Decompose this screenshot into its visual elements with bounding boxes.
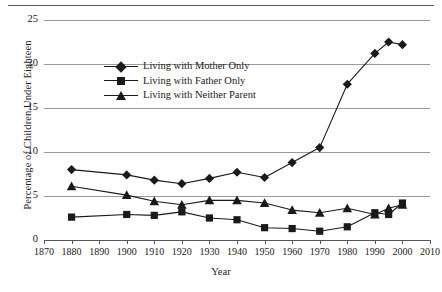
legend-item-label: Living with Father Only: [143, 74, 245, 89]
x-tick-1970: [320, 240, 321, 244]
triangle-marker-icon: [104, 88, 138, 102]
x-tick-1920: [182, 240, 183, 244]
x-tick-1870: [44, 240, 45, 244]
data-point-square-1970: [316, 228, 323, 235]
square-marker-icon: [104, 74, 138, 88]
data-point-square-1920: [178, 208, 185, 215]
x-tick-1910: [154, 240, 155, 244]
data-point-triangle-1880: [67, 182, 77, 191]
diamond-marker-icon: [104, 59, 138, 73]
legend-item-label: Living with Neither Parent: [143, 88, 256, 103]
data-point-diamond-2000: [398, 40, 407, 49]
y-tick-label-10: 10: [12, 145, 38, 156]
legend-item-1: Living with Mother Only: [104, 59, 256, 74]
x-tick-1890: [99, 240, 100, 244]
data-point-diamond-1920: [177, 179, 186, 188]
x-tick-1990: [375, 240, 376, 244]
legend-item-3: Living with Neither Parent: [104, 88, 256, 103]
data-point-diamond-1950: [260, 173, 269, 182]
data-point-diamond-1930: [205, 174, 214, 183]
series-2: [68, 199, 406, 234]
chart-legend: Living with Mother OnlyLiving with Fathe…: [104, 59, 256, 103]
data-point-diamond-1940: [232, 168, 241, 177]
data-point-diamond-1900: [122, 170, 131, 179]
x-tick-2000: [402, 240, 403, 244]
y-tick-label-15: 15: [12, 101, 38, 112]
series-3: [67, 182, 407, 219]
data-point-diamond-1910: [150, 176, 159, 185]
legend-marker: [116, 91, 126, 100]
data-point-diamond-1960: [288, 158, 297, 167]
data-point-square-1980: [344, 223, 351, 230]
data-point-square-1930: [206, 214, 213, 221]
data-point-diamond-1970: [315, 143, 324, 152]
x-tick-1950: [265, 240, 266, 244]
data-point-square-1960: [289, 225, 296, 232]
x-tick-label-2010: 2010: [410, 246, 442, 257]
data-point-square-1900: [123, 211, 130, 218]
x-tick-1930: [209, 240, 210, 244]
legend-item-2: Living with Father Only: [104, 74, 256, 89]
x-tick-2010: [430, 240, 431, 244]
y-tick-label-5: 5: [12, 189, 38, 200]
data-point-square-1910: [151, 212, 158, 219]
x-tick-1900: [127, 240, 128, 244]
x-tick-1940: [237, 240, 238, 244]
x-axis-title: Year: [0, 266, 442, 277]
y-tick-label-25: 25: [12, 13, 38, 24]
chart-figure: Percentage of Children Under Eighteen Li…: [0, 0, 442, 292]
data-point-square-1950: [261, 224, 268, 231]
data-point-diamond-1880: [67, 165, 76, 174]
y-tick-label-0: 0: [12, 233, 38, 244]
x-tick-1960: [292, 240, 293, 244]
data-point-square-1880: [68, 214, 75, 221]
x-tick-1980: [347, 240, 348, 244]
x-tick-1880: [72, 240, 73, 244]
legend-marker: [115, 61, 126, 72]
y-tick-label-20: 20: [12, 57, 38, 68]
legend-item-label: Living with Mother Only: [143, 59, 249, 74]
legend-marker: [117, 77, 125, 85]
data-point-square-1940: [233, 216, 240, 223]
data-point-triangle-1980: [342, 204, 352, 213]
